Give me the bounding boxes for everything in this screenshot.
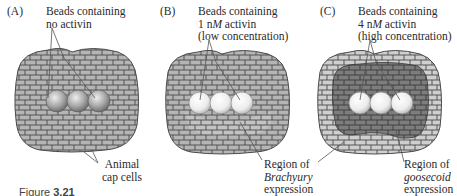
panel-c-bead-3 <box>391 92 413 114</box>
panel-c-bead-1 <box>349 92 371 114</box>
panel-c-bead-2 <box>370 92 392 114</box>
panel-a-bead-2 <box>67 90 89 112</box>
panel-c-animal-cap <box>318 40 442 162</box>
panel-a-animal-cap <box>15 28 139 163</box>
panel-b-bead-2 <box>210 92 232 114</box>
figure-artwork <box>0 0 457 196</box>
panel-a-bead-1 <box>46 90 68 112</box>
panel-b-bead-3 <box>231 92 253 114</box>
panel-b-animal-cap <box>166 40 290 160</box>
panel-b-bead-1 <box>189 92 211 114</box>
